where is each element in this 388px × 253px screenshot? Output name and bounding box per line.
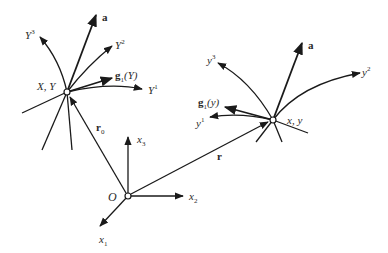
left-curve-Y2-index: 2: [121, 38, 125, 46]
origin-label: O: [108, 191, 117, 203]
right-curve-y2-index: 2: [367, 65, 371, 73]
vector-r0-arrow: [70, 97, 126, 193]
left-curve-Y2-label: Y2: [115, 39, 125, 51]
axis-x2-label: x2: [189, 191, 197, 205]
diagram-svg: [0, 0, 388, 253]
left-point-label: X, Y: [37, 81, 55, 92]
vector-r-label: r: [217, 151, 222, 162]
right-curve-y2-arrow: [273, 73, 360, 120]
right-vector-a-arrow: [273, 43, 302, 120]
left-curve-Y1-label: Y1: [148, 84, 158, 96]
right-point-node: [270, 117, 276, 123]
axis-x1-label: x1: [99, 234, 107, 248]
right-curve-y1-arrow: [210, 115, 273, 120]
left-vector-a-label: a: [102, 12, 108, 23]
vector-r0-index: 0: [101, 128, 105, 136]
right-curve-y3-index: 3: [212, 53, 216, 61]
right-curve-y1-index: 1: [201, 116, 205, 124]
right-point-label: x, y: [287, 115, 302, 126]
left-curve-tail-1: [22, 92, 67, 113]
right-vector-a-label: a: [308, 40, 314, 51]
right-vector-g1-label: g1(y): [198, 97, 219, 111]
left-curve-Y1-arrow: [67, 86, 142, 92]
left-curve-tail-3: [67, 92, 72, 150]
origin-node: [125, 193, 131, 199]
left-point-node: [64, 89, 70, 95]
axis-x2-index: 2: [194, 197, 198, 205]
left-g-arg: (Y): [124, 69, 137, 81]
diagram-canvas: O x3 x2 x1 r0 r X, Y a Y3 Y2 g1(Y) Y1 x,…: [0, 0, 388, 253]
right-curve-y3-label: y3: [207, 54, 215, 66]
left-vector-g1-label: g1(Y): [115, 70, 137, 84]
left-curve-tail-2: [42, 92, 67, 150]
right-g-arg: (y): [207, 96, 219, 108]
axis-x3-index: 3: [142, 140, 146, 148]
axis-x1-index: 1: [104, 240, 108, 248]
right-curve-y2-label: y2: [362, 66, 370, 78]
right-curve-y3-arrow: [218, 63, 273, 120]
left-curve-Y1-index: 1: [154, 83, 158, 91]
left-curve-Y3-index: 3: [31, 28, 35, 36]
vector-r0-label: r0: [96, 122, 104, 136]
vector-r-arrow: [131, 122, 268, 194]
left-vector-a-arrow: [67, 15, 96, 92]
left-curve-Y3-label: Y3: [25, 29, 35, 41]
right-curve-y1-label: y1: [196, 117, 204, 129]
axis-x3-label: x3: [137, 134, 145, 148]
